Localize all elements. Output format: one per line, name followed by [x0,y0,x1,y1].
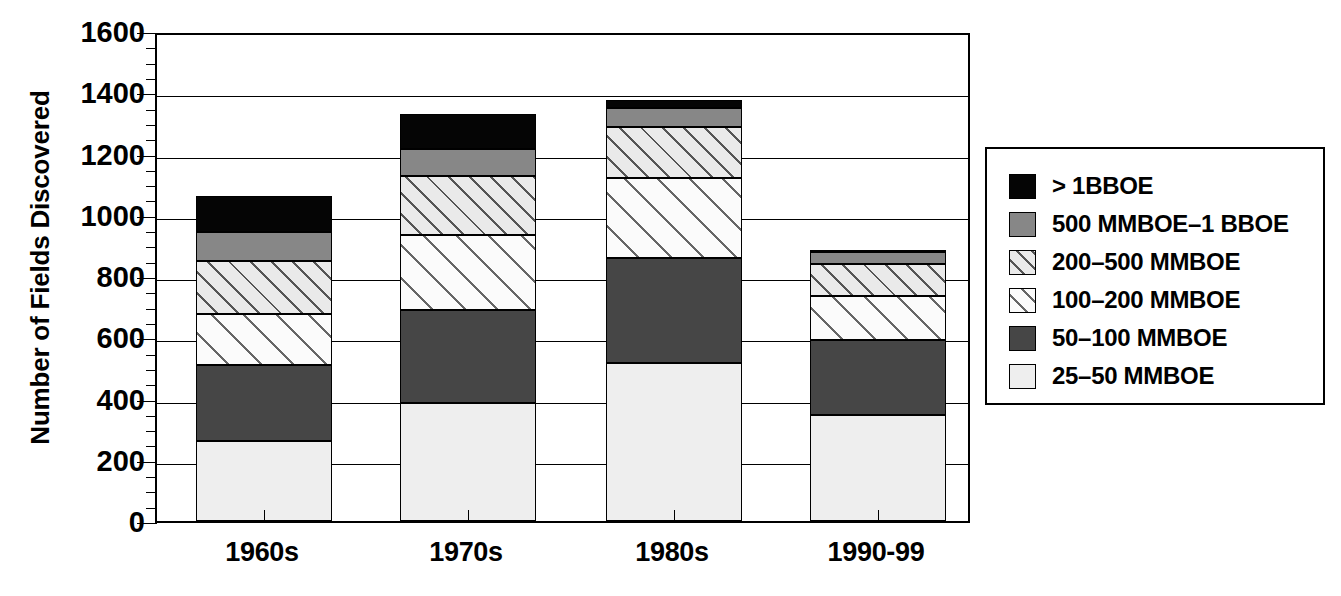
y-axis-tick-labels: 16001400120010008006004002000 [40,0,145,596]
y-axis-tick-label: 1400 [45,79,145,108]
y-axis-tick-label: 1200 [45,141,145,170]
y-axis-tick-label: 0 [45,508,145,537]
legend-item[interactable]: 50–100 MMBOE [1009,319,1323,357]
swatch-500-1bboe-icon [1009,212,1036,237]
y-axis-major-tick [137,33,157,34]
legend-item-label: 50–100 MMBOE [1052,324,1227,352]
bar-segment[interactable] [400,310,536,403]
x-axis-category-label: 1990-99 [766,537,986,568]
x-axis-tick [878,510,879,521]
legend-item[interactable]: 200–500 MMBOE [1009,243,1323,281]
bar-segment[interactable] [606,108,742,128]
y-axis-tick-marks [137,33,157,523]
y-axis-major-tick [137,278,157,279]
bar-segment[interactable] [810,264,946,296]
legend-item-label: 500 MMBOE–1 BBOE [1052,210,1289,238]
swatch-100-200-icon [1009,288,1036,313]
bar-segment[interactable] [196,261,332,315]
legend-item-label: 25–50 MMBOE [1052,362,1214,390]
y-axis-major-tick [137,156,157,157]
bar-segment[interactable] [400,114,536,149]
x-axis-category-label: 1960s [152,537,372,568]
swatch-200-500-icon [1009,250,1036,275]
bar-1960s[interactable] [196,31,332,521]
bar-1970s[interactable] [400,31,536,521]
legend-item[interactable]: > 1BBOE [1009,167,1323,205]
bar-segment[interactable] [606,127,742,178]
bar-segment[interactable] [400,149,536,177]
legend-item-label: 100–200 MMBOE [1052,286,1240,314]
y-axis-major-tick [137,523,157,524]
bar-segment[interactable] [606,363,742,521]
swatch-gt-1bboe-icon [1009,174,1036,199]
bar-segment[interactable] [810,252,946,264]
bar-segment[interactable] [400,176,536,234]
y-axis-tick-label: 1000 [45,202,145,231]
bar-segment[interactable] [810,415,946,521]
legend-item-label: 200–500 MMBOE [1052,248,1240,276]
legend-item[interactable]: 100–200 MMBOE [1009,281,1323,319]
x-axis-tick [674,510,675,521]
bar-segment[interactable] [196,314,332,365]
bar-segment[interactable] [196,196,332,231]
bar-segment[interactable] [810,340,946,415]
y-axis-tick-label: 200 [45,447,145,476]
bar-segment[interactable] [400,235,536,310]
bar-segment[interactable] [606,178,742,258]
y-axis-tick-label: 600 [45,324,145,353]
x-axis-category-label: 1980s [562,537,782,568]
plot-area [155,33,970,523]
bar-segment[interactable] [196,365,332,442]
legend-item[interactable]: 500 MMBOE–1 BBOE [1009,205,1323,243]
x-axis-category-label: 1970s [356,537,576,568]
bar-segment[interactable] [810,250,946,252]
bar-1990-99[interactable] [810,31,946,521]
swatch-25-50-icon [1009,364,1036,389]
legend-item[interactable]: 25–50 MMBOE [1009,357,1323,395]
y-axis-major-tick [137,94,157,95]
bar-segment[interactable] [196,232,332,261]
bar-1980s[interactable] [606,31,742,521]
y-axis-major-tick [137,401,157,402]
y-axis-major-tick [137,462,157,463]
swatch-50-100-icon [1009,326,1036,351]
x-axis-tick [468,510,469,521]
bar-segment[interactable] [810,296,946,340]
bar-segment[interactable] [400,403,536,521]
x-axis-tick [264,510,265,521]
y-axis-tick-label: 400 [45,386,145,415]
stacked-bar-chart: Number of Fields Discovered 160014001200… [0,0,1341,596]
y-axis-major-tick [137,217,157,218]
legend: > 1BBOE500 MMBOE–1 BBOE200–500 MMBOE100–… [985,147,1325,405]
y-axis-major-tick [137,339,157,340]
legend-item-label: > 1BBOE [1052,172,1153,200]
bar-segment[interactable] [606,258,742,364]
y-axis-tick-label: 1600 [45,18,145,47]
bar-segment[interactable] [606,100,742,108]
y-axis-tick-label: 800 [45,263,145,292]
